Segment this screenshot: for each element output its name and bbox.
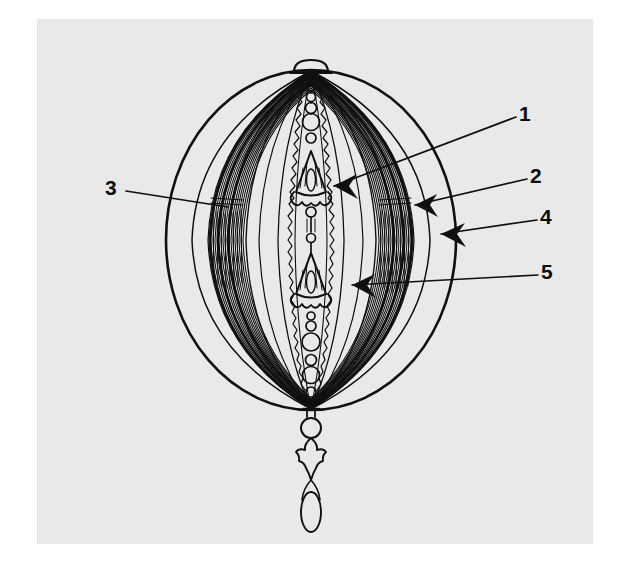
figure-page: 1 2 3 4 5 [0,0,627,578]
callout-leaders [126,117,538,285]
lantern-line-drawing [0,0,627,578]
leader-line-3 [126,191,228,207]
arrowhead-2 [415,194,438,217]
bead-chain-middle [306,207,316,252]
callout-label-2: 2 [530,165,542,186]
arrowhead-1 [334,174,358,199]
callout-label-1: 1 [519,103,531,124]
callout-label-3: 3 [105,177,117,198]
callout-label-5: 5 [541,261,553,282]
arrowhead-4 [441,223,466,247]
bottom-finial [296,409,326,532]
callout-label-4: 4 [540,206,552,227]
